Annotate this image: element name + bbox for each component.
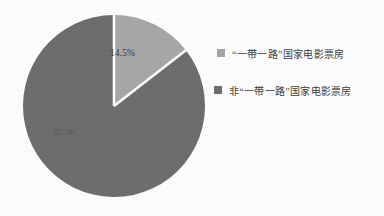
legend-label-non-belt-and-road: 非“一带一路”国家电影票房 [229,83,352,98]
pie-chart-svg [22,12,208,202]
legend-item-non-belt-and-road[interactable]: 非“一带一路”国家电影票房 [214,83,382,97]
legend-label-belt-and-road: “一带一路”国家电影票房 [232,46,344,61]
legend-swatch-icon-non-belt-and-road [214,86,222,94]
pie-chart-figure: 14.5% 85.5% “一带一路”国家电影票房 非“一带一路”国家电影票房 [0,0,384,216]
chart-legend: “一带一路”国家电影票房 非“一带一路”国家电影票房 [214,46,382,97]
pie-chart-plot-area: 14.5% 85.5% [22,12,208,202]
legend-swatch-icon-belt-and-road [217,49,225,57]
legend-item-belt-and-road[interactable]: “一带一路”国家电影票房 [217,46,382,60]
